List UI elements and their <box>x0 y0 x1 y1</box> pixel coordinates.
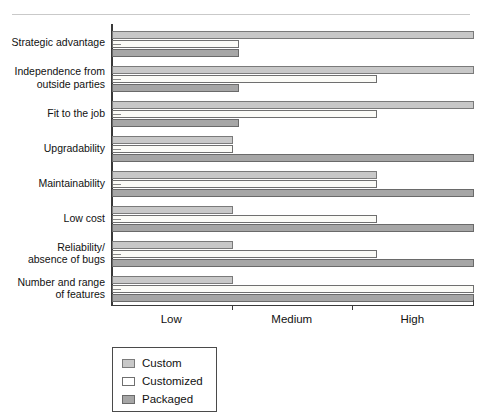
bar-packaged <box>112 259 474 267</box>
bar-custom <box>112 206 233 214</box>
category-label: Low cost <box>0 212 105 225</box>
bar-custom <box>112 171 377 179</box>
bar-customized <box>112 40 239 48</box>
x-axis-end-cap <box>473 300 474 306</box>
category-label: Reliability/ absence of bugs <box>0 241 105 266</box>
chart-legend: Custom Customized Packaged <box>112 347 217 412</box>
legend-item-custom: Custom <box>122 354 216 372</box>
bar-packaged <box>112 49 239 57</box>
legend-label-packaged: Packaged <box>142 393 193 405</box>
bar-packaged <box>112 224 474 232</box>
category-tick <box>113 219 121 220</box>
bar-customized <box>112 215 377 223</box>
legend-swatch-icon-customized <box>122 377 135 386</box>
category-tick <box>113 44 121 45</box>
bar-customized <box>112 110 377 118</box>
legend-swatch-icon-custom <box>122 359 135 368</box>
category-tick <box>113 149 121 150</box>
category-tick <box>113 184 121 185</box>
category-label: Independence from outside parties <box>0 65 105 90</box>
legend-item-packaged: Packaged <box>122 390 216 408</box>
bar-custom <box>112 276 233 284</box>
category-tick <box>113 114 121 115</box>
x-axis-tick-label: High <box>400 313 424 325</box>
bar-packaged <box>112 294 474 302</box>
bar-custom <box>112 66 474 74</box>
category-tick <box>113 79 121 80</box>
x-axis-tick <box>232 305 233 310</box>
category-label: Upgradability <box>0 142 105 155</box>
bar-packaged <box>112 84 239 92</box>
category-label: Maintainability <box>0 177 105 190</box>
bar-customized <box>112 180 377 188</box>
category-label: Strategic advantage <box>0 36 105 49</box>
bar-custom <box>112 241 233 249</box>
category-tick <box>113 254 121 255</box>
bar-customized <box>112 145 233 153</box>
x-axis-tick-label: Medium <box>271 313 312 325</box>
bar-packaged <box>112 154 474 162</box>
plot-area <box>111 24 473 305</box>
bar-packaged <box>112 119 239 127</box>
legend-label-custom: Custom <box>142 357 182 369</box>
category-tick <box>113 289 121 290</box>
x-axis-line <box>111 305 473 306</box>
x-axis-tick-label: Low <box>161 313 182 325</box>
bar-customized <box>112 250 377 258</box>
x-axis-tick <box>352 305 353 310</box>
bar-custom <box>112 101 474 109</box>
bar-customized <box>112 75 377 83</box>
legend-swatch-icon-packaged <box>122 395 135 404</box>
top-divider-rule <box>12 14 470 15</box>
bar-packaged <box>112 189 474 197</box>
bar-customized <box>112 285 474 293</box>
chart-figure: Strategic advantageIndependence from out… <box>0 0 481 420</box>
category-label: Fit to the job <box>0 107 105 120</box>
category-label: Number and range of features <box>0 276 105 301</box>
bar-custom <box>112 136 233 144</box>
legend-item-customized: Customized <box>122 372 216 390</box>
bar-custom <box>112 31 474 39</box>
legend-label-customized: Customized <box>142 375 203 387</box>
